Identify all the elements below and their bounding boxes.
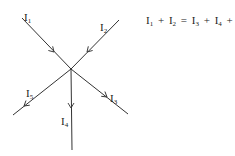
label-i1: I1 xyxy=(24,12,31,25)
label-i5: I5 xyxy=(26,88,33,101)
wire-i5 xyxy=(13,69,71,115)
label-i2: I2 xyxy=(100,22,107,35)
label-i3: I3 xyxy=(110,93,117,106)
label-i4: I4 xyxy=(61,116,68,129)
wire-i2 xyxy=(71,20,119,69)
wire-i1 xyxy=(22,18,71,69)
kcl-equation: I1 + I2 = I3 + I4 + I5 xyxy=(146,15,235,28)
wire-i3 xyxy=(71,69,128,114)
wire-i4 xyxy=(71,69,72,150)
